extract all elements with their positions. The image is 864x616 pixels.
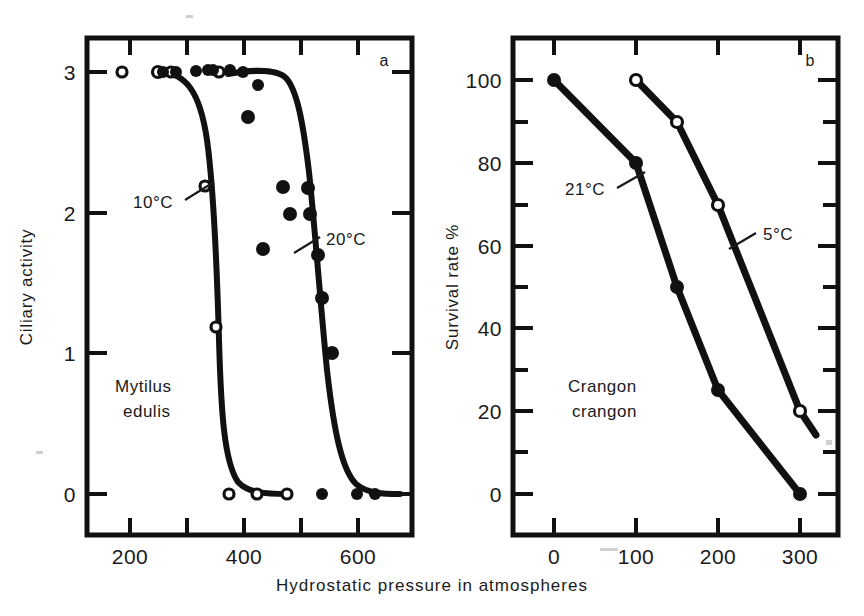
scan-speck — [186, 15, 193, 18]
panel-a-letter: a — [380, 52, 389, 69]
data-point-filled — [315, 291, 329, 305]
data-point-open — [224, 489, 234, 499]
panel-b-species-line1: Crangon — [568, 377, 637, 396]
data-point-filled — [256, 242, 270, 256]
data-point-filled — [207, 64, 219, 76]
panel-b-annotation-21c: 21°C — [565, 180, 605, 199]
panel-b-ytick-20: 20 — [478, 400, 502, 423]
data-point-open — [282, 489, 292, 499]
data-point-filled — [276, 180, 290, 194]
figure-root: 3 2 1 0 200 400 600 Ciliary activity a M… — [0, 0, 864, 616]
data-point-open — [117, 67, 127, 77]
panel-a-ytick-2: 2 — [64, 202, 76, 225]
data-point-filled — [629, 156, 643, 170]
data-point-filled — [237, 66, 249, 78]
panel-a-xtick-200: 200 — [112, 545, 149, 568]
figure-x-axis-caption: Hydrostatic pressure in atmospheres — [276, 576, 588, 595]
panel-a-annotation-10c: 10°C — [133, 193, 173, 212]
data-point-filled — [170, 66, 182, 78]
data-point-filled — [711, 383, 725, 397]
scan-speck — [826, 440, 832, 445]
data-point-filled — [252, 79, 264, 91]
panel-b-xtick-0: 0 — [548, 545, 560, 568]
panel-a-y-axis-title: Ciliary activity — [17, 229, 36, 346]
data-point-filled — [301, 181, 315, 195]
panel-b-y-axis-title: Survival rate % — [443, 224, 462, 350]
data-point-filled — [793, 487, 807, 501]
panel-b-annotation-5c: 5°C — [763, 225, 793, 244]
data-point-open — [631, 75, 642, 86]
data-point-filled — [283, 207, 297, 221]
data-point-open — [211, 322, 221, 332]
data-point-open — [795, 406, 806, 417]
panel-b-xtick-300: 300 — [782, 545, 819, 568]
data-point-open — [672, 117, 683, 128]
panel-a-species-line1: Mytilus — [115, 377, 171, 396]
panel-b-ytick-40: 40 — [478, 317, 502, 340]
data-point-open — [713, 200, 724, 211]
panel-a-ytick-3: 3 — [64, 61, 76, 84]
data-point-filled — [547, 73, 561, 87]
panel-b-ytick-80: 80 — [478, 152, 502, 175]
panel-b-xtick-100: 100 — [618, 545, 655, 568]
data-point-filled — [303, 207, 317, 221]
data-point-filled — [224, 64, 236, 76]
data-point-filled — [190, 65, 202, 77]
panel-b-ytick-0: 0 — [490, 483, 502, 506]
data-point-filled — [311, 248, 325, 262]
data-point-open — [252, 489, 262, 499]
panel-b-xtick-200: 200 — [700, 545, 737, 568]
data-point-filled — [241, 110, 255, 124]
data-point-filled — [316, 488, 328, 500]
panel-a-ytick-1: 1 — [64, 342, 76, 365]
data-point-filled — [325, 346, 339, 360]
data-point-filled — [351, 488, 363, 500]
panel-a-xtick-400: 400 — [226, 545, 263, 568]
panel-b-ytick-100: 100 — [465, 69, 502, 92]
scan-speck — [600, 548, 618, 551]
scan-speck — [36, 451, 43, 454]
panel-a-annotation-20c: 20°C — [326, 230, 366, 249]
data-point-filled — [157, 66, 169, 78]
panel-a-species-line2: edulis — [123, 402, 170, 421]
panel-b-letter: b — [806, 52, 815, 69]
data-point-filled — [670, 280, 684, 294]
panel-b-ytick-60: 60 — [478, 235, 502, 258]
panel-a-ytick-0: 0 — [64, 483, 76, 506]
panel-b-species-line2: crangon — [572, 402, 637, 421]
scientific-figure: 3 2 1 0 200 400 600 Ciliary activity a M… — [0, 0, 864, 616]
data-point-filled — [369, 488, 381, 500]
panel-a-xtick-600: 600 — [340, 545, 377, 568]
